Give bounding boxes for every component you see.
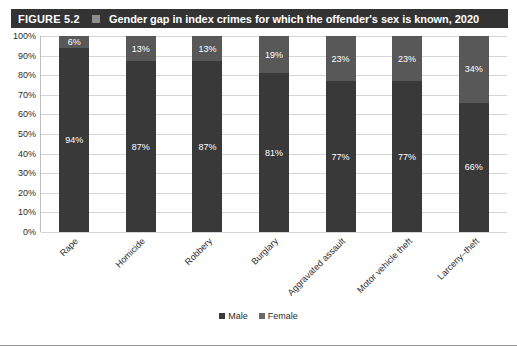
x-axis-label-slot: Larceny–theft — [459, 232, 489, 307]
x-axis-label-slot: Rape — [58, 232, 88, 307]
y-axis-tick-label: 100% — [13, 31, 36, 41]
bar-value-label: 13% — [132, 44, 150, 54]
bar-value-label: 13% — [198, 44, 216, 54]
stacked-bar[interactable]: 13%87% — [192, 36, 222, 232]
plot-area: 6%94%13%87%13%87%19%81%23%77%23%77%34%66… — [40, 36, 507, 232]
legend-swatch-icon — [219, 313, 225, 319]
x-axis-tick-label: Motor vehicle theft — [355, 236, 414, 295]
x-axis-tick-label: Robbery — [183, 236, 214, 267]
bar-segment-female[interactable]: 34% — [459, 36, 489, 103]
x-axis-tick-label: Homicide — [114, 236, 148, 270]
bar-value-label: 77% — [398, 152, 416, 162]
bar-value-label: 77% — [332, 152, 350, 162]
bar-value-label: 19% — [265, 50, 283, 60]
stacked-bar[interactable]: 23%77% — [326, 36, 356, 232]
stacked-bar[interactable]: 34%66% — [459, 36, 489, 232]
figure-title-bar: FIGURE 5.2 Gender gap in index crimes fo… — [11, 9, 508, 28]
x-axis-tick-label: Aggravated assault — [286, 236, 348, 298]
bar-segment-female[interactable]: 6% — [59, 36, 89, 48]
bar-segment-female[interactable]: 13% — [192, 36, 222, 61]
legend-label: Male — [228, 311, 248, 321]
y-axis-tick-label: 20% — [18, 188, 36, 198]
bar-segment-female[interactable]: 23% — [392, 36, 422, 81]
y-axis-tick-label: 40% — [18, 149, 36, 159]
bar-value-label: 23% — [398, 54, 416, 64]
y-axis-tick-label: 60% — [18, 109, 36, 119]
legend-swatch-icon — [259, 313, 265, 319]
bar-value-label: 6% — [68, 37, 81, 47]
x-axis-label-slot: Aggravated assault — [325, 232, 355, 307]
bar-value-label: 34% — [465, 64, 483, 74]
bar-segment-female[interactable]: 23% — [326, 36, 356, 81]
y-axis-tick-label: 90% — [18, 51, 36, 61]
page-title: Gender gap in index crimes for which the… — [109, 13, 479, 25]
x-axis-label-slot: Burglary — [258, 232, 288, 307]
bar-segment-male[interactable]: 94% — [59, 48, 89, 232]
bar-group: 6%94%13%87%13%87%19%81%23%77%23%77%34%66… — [41, 36, 507, 232]
bar-segment-female[interactable]: 13% — [126, 36, 156, 61]
x-axis-label-slot: Motor vehicle theft — [392, 232, 422, 307]
bar-value-label: 81% — [265, 148, 283, 158]
stacked-bar[interactable]: 6%94% — [59, 36, 89, 232]
stacked-bar[interactable]: 13%87% — [126, 36, 156, 232]
y-axis-tick-label: 70% — [18, 90, 36, 100]
bar-segment-male[interactable]: 81% — [259, 73, 289, 232]
bar-segment-male[interactable]: 77% — [392, 81, 422, 232]
x-axis-label-slot: Homicide — [125, 232, 155, 307]
figure-number-label: FIGURE 5.2 — [18, 13, 80, 25]
stacked-bar[interactable]: 23%77% — [392, 36, 422, 232]
bar-segment-male[interactable]: 77% — [326, 81, 356, 232]
legend-item[interactable]: Female — [259, 311, 298, 321]
bar-segment-male[interactable]: 66% — [459, 103, 489, 232]
bar-value-label: 66% — [465, 162, 483, 172]
plot-wrapper: 0%10%20%30%40%50%60%70%80%90%100% 6%94%1… — [0, 36, 517, 232]
chart-legend: MaleFemale — [0, 311, 517, 321]
legend-label: Female — [268, 311, 298, 321]
bar-value-label: 94% — [65, 135, 83, 145]
x-axis-label-slot: Robbery — [192, 232, 222, 307]
bar-value-label: 87% — [132, 142, 150, 152]
bar-segment-male[interactable]: 87% — [192, 61, 222, 232]
y-axis-tick-label: 50% — [18, 129, 36, 139]
bar-value-label: 23% — [332, 54, 350, 64]
x-axis-tick-label: Rape — [58, 236, 80, 258]
x-axis-tick-label: Burglary — [250, 236, 281, 267]
legend-item[interactable]: Male — [219, 311, 248, 321]
stacked-bar[interactable]: 19%81% — [259, 36, 289, 232]
x-axis-tick-label: Larceny–theft — [435, 236, 481, 282]
bar-segment-female[interactable]: 19% — [259, 36, 289, 73]
bar-value-label: 87% — [198, 142, 216, 152]
y-axis-tick-label: 0% — [23, 227, 36, 237]
y-axis-tick-label: 80% — [18, 70, 36, 80]
x-axis-category-labels: RapeHomicideRobberyBurglaryAggravated as… — [40, 232, 507, 307]
figure-container: FIGURE 5.2 Gender gap in index crimes fo… — [0, 0, 517, 346]
y-axis-tick-label: 10% — [18, 207, 36, 217]
y-axis: 0%10%20%30%40%50%60%70%80%90%100% — [0, 36, 40, 232]
y-axis-tick-label: 30% — [18, 168, 36, 178]
bar-segment-male[interactable]: 87% — [126, 61, 156, 232]
square-marker-icon — [92, 15, 100, 23]
